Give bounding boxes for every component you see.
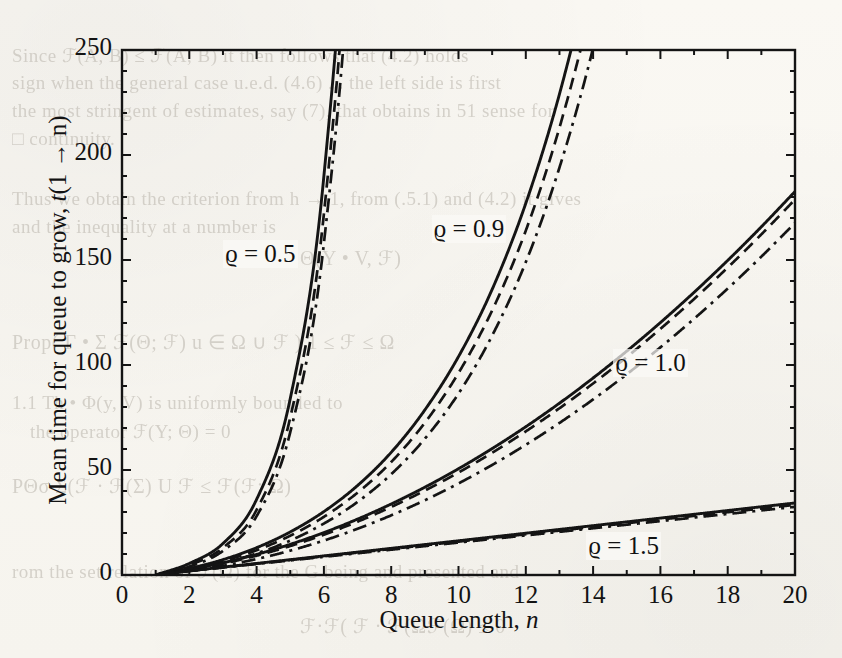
annotation-rho-0-5: ϱ = 0.5 bbox=[223, 240, 298, 268]
curve-lines bbox=[156, 0, 795, 575]
x-tick-label: 8 bbox=[369, 581, 413, 609]
y-tick-label: 100 bbox=[75, 348, 113, 376]
curve-1-0-dashdot bbox=[156, 223, 795, 575]
curve-0-9-dashed bbox=[156, 0, 610, 575]
axes-frame bbox=[122, 50, 795, 575]
x-tick-label: 0 bbox=[100, 581, 144, 609]
x-tick-label: 16 bbox=[638, 581, 682, 609]
y-tick-label: 250 bbox=[75, 33, 113, 61]
x-tick-label: 10 bbox=[437, 581, 481, 609]
curve-0-9-dashdot bbox=[156, 0, 622, 575]
x-tick-label: 14 bbox=[571, 581, 615, 609]
x-tick-label: 2 bbox=[167, 581, 211, 609]
y-tick-label: 150 bbox=[75, 243, 113, 271]
annotation-rho-0-9: ϱ = 0.9 bbox=[432, 215, 507, 243]
y-tick-label: 50 bbox=[87, 453, 112, 481]
curve-0-9-solid bbox=[156, 0, 601, 575]
x-axis-title: Queue length, n bbox=[122, 606, 796, 634]
annotation-rho-1-5: ϱ = 1.5 bbox=[586, 532, 661, 560]
axis-ticks bbox=[122, 50, 795, 575]
y-axis-title: Mean time for queue to grow, t(1 → n) bbox=[44, 30, 72, 590]
x-axis-title-var: n bbox=[526, 606, 539, 633]
y-axis-title-arg: (1 → n) bbox=[44, 115, 71, 194]
annotation-rho-1-0: ϱ = 1.0 bbox=[613, 349, 688, 377]
y-axis-title-text: Mean time for queue to grow, bbox=[44, 208, 71, 505]
y-tick-label: 200 bbox=[75, 138, 113, 166]
y-axis-title-var: t bbox=[44, 195, 71, 202]
curve-0-5-dashdot bbox=[156, 0, 353, 575]
x-tick-label: 20 bbox=[773, 581, 817, 609]
x-tick-label: 12 bbox=[504, 581, 548, 609]
curve-0-5-solid bbox=[156, 0, 345, 575]
figure-mean-time-queue-growth: 050100150200250 02468101214161820 Mean t… bbox=[0, 0, 842, 658]
plot-canvas bbox=[0, 0, 842, 658]
x-tick-label: 6 bbox=[302, 581, 346, 609]
x-tick-label: 4 bbox=[235, 581, 279, 609]
x-axis-title-text: Queue length, bbox=[380, 606, 520, 633]
x-tick-label: 18 bbox=[706, 581, 750, 609]
plot-border bbox=[122, 50, 795, 575]
